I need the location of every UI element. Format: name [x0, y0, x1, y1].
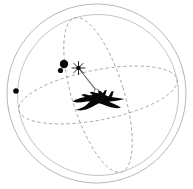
contact-blip-2: [58, 68, 63, 73]
contact-blip-3: [13, 88, 19, 94]
sensor-burst-icon: [72, 62, 85, 75]
contact-blip-1: [60, 60, 68, 68]
radar-sphere-figure: [0, 0, 193, 189]
radar-sphere-canvas: [0, 0, 193, 189]
